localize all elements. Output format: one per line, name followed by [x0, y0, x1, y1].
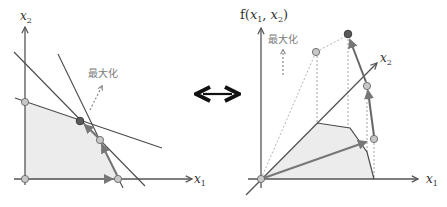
surface-vertex-optimum: [344, 30, 352, 38]
x2-axis-label: x2: [20, 9, 32, 25]
x1-axis-label: x1: [194, 172, 206, 188]
vertex-x1-intercept: [114, 175, 121, 182]
surface-vertex-1: [312, 48, 319, 55]
f-axis-label: f(x1, x2): [240, 7, 288, 24]
x2-axis-label-right: x2: [380, 51, 392, 67]
surface-vertex-origin: [257, 175, 264, 182]
surface-path-arrow-2: [350, 40, 366, 82]
vertex-optimum: [76, 117, 84, 125]
maximize-label-right: 最大化: [268, 33, 298, 45]
right-diagram: 最大化 f(x1, x2) x2 x1: [240, 7, 438, 195]
surface-path-arrow-1: [368, 91, 374, 136]
surface-vertex-3: [363, 82, 370, 89]
vertex-3: [96, 136, 103, 143]
lp-simplex-diagram: 最大化 x2 x1: [0, 0, 447, 207]
vertex-origin: [21, 175, 28, 182]
x1-axis-label-right: x1: [426, 172, 438, 188]
feasible-region: [25, 102, 118, 179]
maximize-label: 最大化: [88, 67, 118, 79]
vertex-x2-intercept: [21, 98, 28, 105]
surface-vertex-4: [370, 135, 377, 142]
maximize-direction-arrow: [90, 86, 102, 110]
projected-feasible-region: [261, 123, 374, 179]
dotted-top-edge: [316, 35, 348, 52]
left-diagram: 最大化 x2 x1: [14, 9, 206, 188]
